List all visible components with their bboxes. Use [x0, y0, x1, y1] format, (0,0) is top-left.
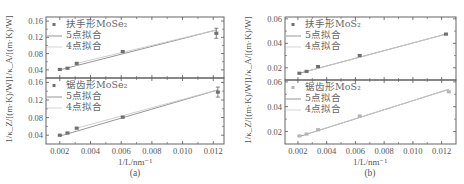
legend-label: 5点拟合 — [305, 92, 341, 103]
data-point — [358, 54, 362, 57]
panel-a: 0.040.080.120.16扶手形MoSe₂5点拟合4点拟合1/κ_A/[(… — [4, 15, 224, 179]
y-tick-label: 0.16 — [28, 77, 43, 87]
x-tick-label: 0.002 — [50, 146, 69, 156]
x-tick-label: 0.008 — [375, 146, 394, 156]
y-tick-label: 0.04 — [28, 130, 44, 140]
subplot-zigzag: 0.020.040.06锯齿形MoS₂5点拟合4点拟合1/κ_Z/[(m·K)/… — [243, 77, 456, 144]
legend: 锯齿形MoSe₂5点拟合4点拟合 — [47, 79, 128, 112]
panel-caption: (a) — [130, 168, 141, 179]
subplot-armchair: 0.020.040.06扶手形MoS₂5点拟合4点拟合1/κ_A/[(m·K)/… — [243, 14, 456, 81]
y-tick-label: 0.02 — [267, 63, 282, 73]
data-point — [447, 90, 451, 93]
legend-label: 5点拟合 — [305, 29, 341, 40]
data-point — [214, 32, 218, 35]
data-point — [75, 127, 79, 130]
data-point — [75, 62, 79, 65]
legend-label: 扶手形MoS₂ — [305, 18, 361, 29]
x-tick-label: 0.004 — [81, 146, 101, 156]
x-axis-label: 1/L/nm⁻¹ — [353, 157, 387, 167]
subplot-zigzag: 0.040.080.120.16锯齿形MoSe₂5点拟合4点拟合1/κ_Z/[(… — [4, 77, 224, 144]
legend-label: 锯齿形MoSe₂ — [66, 79, 128, 90]
y-tick-label: 0.06 — [267, 14, 282, 24]
panel-b: 0.020.040.06扶手形MoS₂5点拟合4点拟合1/κ_A/[(m·K)/… — [243, 14, 456, 179]
legend: 扶手形MoS₂5点拟合4点拟合 — [286, 18, 361, 51]
legend-label: 4点拟合 — [66, 40, 102, 51]
x-tick-label: 0.012 — [204, 146, 223, 156]
data-point — [297, 72, 301, 75]
y-axis-label: 1/κ_Z/[(m·K)/W] — [4, 79, 14, 143]
legend-marker-icon — [292, 86, 295, 89]
y-tick-label: 0.08 — [28, 113, 43, 123]
legend-marker-icon — [53, 84, 56, 87]
y-tick-label: 0.12 — [28, 95, 43, 105]
legend-marker-icon — [53, 23, 56, 26]
data-point — [316, 65, 320, 68]
data-point — [121, 116, 125, 119]
y-tick-label: 0.08 — [28, 49, 43, 59]
legend: 锯齿形MoS₂5点拟合4点拟合 — [286, 81, 361, 114]
figure-canvas: 0.040.080.120.16扶手形MoSe₂5点拟合4点拟合1/κ_A/[(… — [0, 0, 464, 184]
panel-caption: (b) — [364, 168, 375, 179]
y-tick-label: 0.12 — [28, 32, 43, 42]
legend-label: 扶手形MoSe₂ — [66, 18, 128, 29]
y-tick-label: 0.04 — [267, 38, 283, 48]
data-point — [65, 131, 69, 134]
x-tick-label: 0.010 — [173, 146, 192, 156]
data-point — [316, 128, 320, 131]
legend-label: 5点拟合 — [66, 29, 102, 40]
subplot-armchair: 0.040.080.120.16扶手形MoSe₂5点拟合4点拟合1/κ_A/[(… — [4, 15, 224, 80]
x-tick-label: 0.008 — [142, 146, 161, 156]
legend-label: 4点拟合 — [305, 103, 341, 114]
data-point — [121, 50, 125, 53]
data-point — [444, 33, 448, 36]
data-point — [297, 134, 301, 137]
legend-label: 5点拟合 — [66, 90, 102, 101]
data-point — [305, 132, 309, 135]
x-tick-label: 0.004 — [317, 146, 337, 156]
legend-label: 4点拟合 — [305, 40, 341, 51]
legend-marker-icon — [292, 23, 295, 26]
data-point — [358, 114, 362, 117]
x-tick-label: 0.002 — [288, 146, 307, 156]
legend: 扶手形MoSe₂5点拟合4点拟合 — [47, 18, 128, 51]
y-axis-label: 1/κ_Z/[(m·K)/W] — [243, 80, 253, 144]
x-tick-label: 0.010 — [403, 146, 422, 156]
y-tick-label: 0.04 — [28, 65, 44, 75]
y-axis-label: 1/κ_A/[(m·K)/W] — [4, 15, 14, 80]
y-tick-label: 0.04 — [267, 102, 283, 112]
x-tick-label: 0.012 — [432, 146, 451, 156]
y-tick-label: 0.16 — [28, 16, 43, 26]
data-point — [58, 134, 62, 137]
data-point — [305, 70, 309, 73]
legend-label: 4点拟合 — [66, 101, 102, 112]
x-tick-label: 0.006 — [112, 146, 131, 156]
data-point — [65, 67, 69, 70]
data-point — [58, 68, 62, 71]
x-axis-label: 1/L/nm⁻¹ — [118, 157, 152, 167]
y-tick-label: 0.06 — [267, 77, 282, 87]
legend-label: 锯齿形MoS₂ — [305, 81, 361, 92]
data-point — [216, 90, 220, 93]
x-tick-label: 0.006 — [346, 146, 365, 156]
y-tick-label: 0.02 — [267, 127, 282, 137]
y-axis-label: 1/κ_A/[(m·K)/W] — [243, 16, 253, 81]
